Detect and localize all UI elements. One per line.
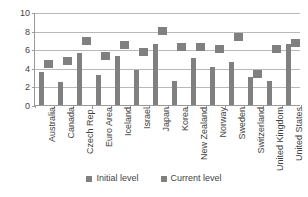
bar-group: [244, 13, 263, 105]
legend-entry[interactable]: Current level: [161, 174, 222, 183]
bar-initial-level: [115, 56, 120, 105]
x-tick-label-slot: Iceland: [110, 107, 129, 169]
marker-current-level: [82, 37, 91, 45]
legend-entry[interactable]: Initial level: [86, 174, 138, 183]
marker-current-level: [253, 70, 262, 78]
plot-frame: [34, 13, 300, 106]
marker-current-level: [120, 41, 129, 49]
bar-group: [149, 13, 168, 105]
bar-initial-level: [153, 44, 158, 105]
x-tick-label-slot: Canada: [53, 107, 72, 169]
x-axis: AustraliaCanadaCzech Rep.Euro AreaIcelan…: [34, 107, 300, 169]
x-tick-label-slot: Israel: [129, 107, 148, 169]
bar-group: [225, 13, 244, 105]
plot-area: [34, 13, 300, 106]
x-tick-label: United States: [295, 107, 304, 161]
y-tick-label: 8: [4, 27, 30, 36]
legend-swatch-icon: [86, 176, 92, 182]
bar-initial-level: [286, 44, 291, 105]
bar-initial-level: [229, 62, 234, 105]
bar-group: [35, 13, 54, 105]
x-tick-label-slot: New Zealand: [186, 107, 205, 169]
bar-initial-level: [39, 72, 44, 105]
y-tick-label: 6: [4, 46, 30, 55]
bar-group: [130, 13, 149, 105]
x-tick-label-slot: Australia: [34, 107, 53, 169]
marker-current-level: [196, 43, 205, 51]
bar-initial-level: [134, 70, 139, 105]
bar-group: [206, 13, 225, 105]
bar-initial-level: [267, 81, 272, 105]
x-tick-label-slot: Czech Rep.: [72, 107, 91, 169]
x-tick-label-slot: Japan: [148, 107, 167, 169]
bar-group: [92, 13, 111, 105]
bar-group: [111, 13, 130, 105]
bar-group: [187, 13, 206, 105]
bar-initial-level: [58, 82, 63, 105]
marker-current-level: [291, 39, 300, 47]
bar-initial-level: [248, 77, 253, 105]
y-tick-label: 0: [4, 102, 30, 111]
x-tick-label-slot: United States: [281, 107, 300, 169]
bar-initial-level: [77, 53, 82, 105]
x-tick-label-slot: Switzerland: [243, 107, 262, 169]
marker-current-level: [44, 60, 53, 68]
chart-legend: Initial levelCurrent level: [0, 174, 308, 183]
legend-swatch-icon: [161, 176, 167, 182]
bar-initial-level: [96, 75, 101, 105]
x-tick-label-slot: Korea: [167, 107, 186, 169]
bar-initial-level: [191, 58, 196, 105]
marker-current-level: [158, 27, 167, 35]
y-tick-label: 4: [4, 64, 30, 73]
x-tick-label-slot: Norway: [205, 107, 224, 169]
bar-group: [73, 13, 92, 105]
bar-group: [263, 13, 282, 105]
bar-group: [54, 13, 73, 105]
marker-current-level: [215, 45, 224, 53]
marker-current-level: [177, 43, 186, 51]
bar-group: [168, 13, 187, 105]
marker-current-level: [139, 48, 148, 56]
bar-group: [282, 13, 301, 105]
x-tick-label-slot: United Kingdom: [262, 107, 281, 169]
marker-current-level: [234, 33, 243, 41]
x-tick-label-slot: Sweden: [224, 107, 243, 169]
bar-initial-level: [210, 67, 215, 105]
legend-label: Initial level: [96, 174, 138, 183]
marker-current-level: [101, 52, 110, 60]
marker-current-level: [63, 57, 72, 65]
legend-label: Current level: [171, 174, 222, 183]
x-tick-label-slot: Euro Area: [91, 107, 110, 169]
y-axis: 0246810: [0, 13, 30, 106]
marker-current-level: [272, 45, 281, 53]
y-tick-label: 10: [4, 9, 30, 18]
bar-chart: 0246810 AustraliaCanadaCzech Rep.Euro Ar…: [0, 0, 308, 197]
y-tick-label: 2: [4, 83, 30, 92]
bar-initial-level: [172, 81, 177, 105]
